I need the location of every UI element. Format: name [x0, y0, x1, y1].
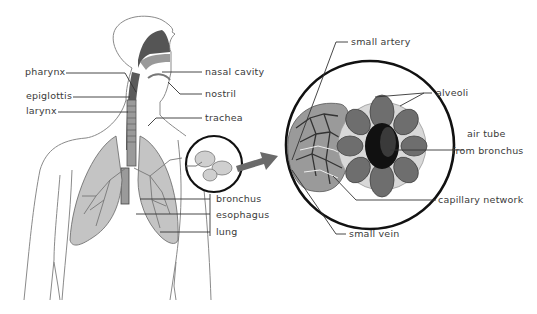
label-air-tube: air tube	[467, 129, 506, 139]
label-from-bronchus: from bronchus	[452, 146, 524, 156]
diagram-illustration	[0, 0, 537, 314]
nasal-cavity-shape	[138, 30, 170, 80]
alveoli-detail-circle	[286, 61, 454, 229]
label-bronchus: bronchus	[216, 194, 261, 204]
label-alveoli: alveoli	[436, 88, 468, 98]
trachea-column	[121, 72, 140, 204]
label-capillary-network: capillary network	[438, 195, 523, 205]
label-nasal-cavity: nasal cavity	[205, 67, 264, 77]
respiratory-diagram: pharynx epiglottis larynx nasal cavity n…	[0, 0, 537, 314]
label-epiglottis: epiglottis	[26, 91, 72, 101]
label-small-vein: small vein	[349, 229, 399, 239]
label-lung: lung	[216, 227, 238, 237]
label-pharynx: pharynx	[25, 67, 65, 77]
label-trachea: trachea	[205, 113, 243, 123]
label-small-artery: small artery	[351, 37, 411, 47]
small-zoom-circle	[186, 136, 242, 192]
label-nostril: nostril	[205, 89, 236, 99]
label-esophagus: esophagus	[216, 210, 269, 220]
label-larynx: larynx	[26, 106, 57, 116]
